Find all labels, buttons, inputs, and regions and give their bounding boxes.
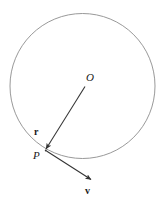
orbit-circle xyxy=(10,14,155,159)
radius-vector-arrow xyxy=(46,87,85,150)
label-velocity-vector-v: v xyxy=(85,186,90,196)
point-p-marker xyxy=(45,150,47,152)
label-center-o: O xyxy=(86,72,94,83)
figure-canvas: O P r v xyxy=(0,0,163,213)
velocity-vector-arrow xyxy=(47,151,92,180)
diagram-svg xyxy=(0,0,163,213)
label-point-p: P xyxy=(33,150,40,161)
label-radius-vector-r: r xyxy=(34,127,38,137)
